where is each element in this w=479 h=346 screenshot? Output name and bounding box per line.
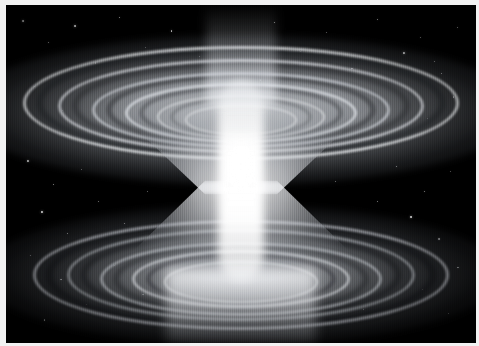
star: [48, 42, 49, 43]
star: [424, 191, 425, 192]
star: [41, 211, 43, 213]
wormhole-scene: Grayscale rendering of a wormhole: an ho…: [6, 5, 476, 343]
scene-alt-text: Grayscale rendering of a wormhole: an ho…: [6, 5, 7, 6]
star: [22, 20, 23, 21]
star: [27, 160, 29, 162]
star: [53, 184, 54, 185]
star: [420, 37, 421, 38]
image-frame: Grayscale rendering of a wormhole: an ho…: [0, 0, 479, 346]
star: [457, 27, 458, 28]
lower-light-beam: [166, 269, 316, 343]
throat-hotspot: [224, 134, 258, 194]
upper-light-beam: [206, 5, 276, 106]
star: [450, 171, 451, 172]
